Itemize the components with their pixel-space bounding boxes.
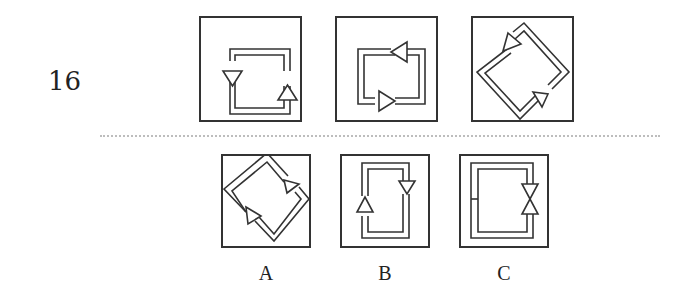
arrow-down-right-icon [246,207,261,224]
option-b-figure[interactable] [340,154,430,248]
arrow-up-icon [522,199,538,214]
option-c-label[interactable]: C [459,262,549,285]
arrow-down-icon [522,184,538,199]
stem-figure-2 [335,16,439,123]
arrow-left-icon [391,42,407,62]
arrow-down-icon [399,181,415,194]
option-a-figure[interactable] [221,154,311,248]
option-c-figure[interactable] [459,154,549,248]
question-number: 16 [48,66,81,96]
option-b-label[interactable]: B [340,262,430,285]
option-a-label[interactable]: A [221,262,311,285]
stem-figure-1 [199,16,303,123]
stem-figure-3 [471,16,575,123]
arrow-up-left-icon [284,180,299,193]
arrow-up-icon [357,197,373,212]
arrow-up-icon [278,85,297,100]
section-divider [100,135,660,137]
arrow-right-icon [379,91,395,111]
arrow-down-icon [223,71,242,86]
